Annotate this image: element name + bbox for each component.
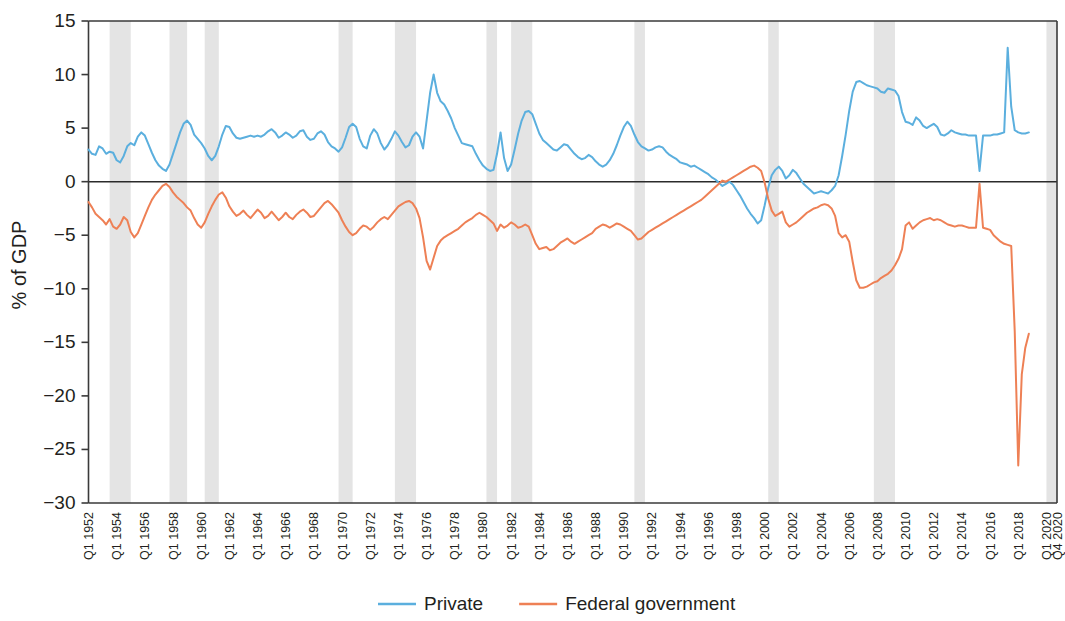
x-tick-label: Q1 1988 — [589, 512, 603, 560]
x-tick-label: Q1 1956 — [138, 512, 152, 560]
recession-band — [170, 21, 188, 503]
x-tick-label: Q1 1974 — [392, 512, 406, 560]
chart-legend: PrivateFederal government — [378, 593, 736, 614]
y-tick-label: 5 — [65, 117, 76, 138]
legend-label-federal-government: Federal government — [565, 593, 736, 614]
recession-band — [395, 21, 416, 503]
y-tick-label: −30 — [43, 492, 75, 513]
x-tick-label: Q1 1996 — [702, 512, 716, 560]
x-tick-label: Q1 1978 — [448, 512, 462, 560]
recession-band — [768, 21, 779, 503]
x-tick-label: Q1 1968 — [307, 512, 321, 560]
recession-band — [110, 21, 131, 503]
x-tick-label: Q1 1976 — [420, 512, 434, 560]
recession-band — [339, 21, 353, 503]
recession-band — [1046, 21, 1057, 503]
y-tick-label: 0 — [65, 171, 76, 192]
x-tick-label: Q1 1986 — [561, 512, 575, 560]
y-axis-title-group: % of GDP — [8, 221, 30, 310]
x-tick-label: Q1 2010 — [899, 512, 913, 560]
x-tick-label: Q1 2002 — [786, 512, 800, 560]
x-tick-label: Q1 1954 — [110, 512, 124, 560]
x-tick-label: Q1 1992 — [645, 512, 659, 560]
recession-band — [205, 21, 219, 503]
x-tick-label: Q4 2020 — [1051, 512, 1065, 560]
axes-group — [89, 21, 1058, 503]
y-axis-title: % of GDP — [8, 221, 30, 310]
net-lending-borrowing-line-chart: 151050−5−10−15−20−25−30 Q1 1952Q1 1954Q1… — [0, 0, 1065, 621]
x-tick-label: Q1 1994 — [674, 512, 688, 560]
y-tick-label: −25 — [43, 438, 75, 459]
x-tick-label: Q1 1990 — [617, 512, 631, 560]
recession-band-group — [110, 21, 1057, 503]
x-tick-label: Q1 2016 — [984, 512, 998, 560]
recession-band — [511, 21, 532, 503]
x-tick-label: Q1 1952 — [82, 512, 96, 560]
y-tick-label: −5 — [54, 224, 76, 245]
x-tick-label: Q1 1980 — [476, 512, 490, 560]
x-tick-label: Q1 1962 — [223, 512, 237, 560]
x-tick-label: Q1 2018 — [1012, 512, 1026, 560]
x-tick-label: Q1 1960 — [195, 512, 209, 560]
chart-figure: 151050−5−10−15−20−25−30 Q1 1952Q1 1954Q1… — [0, 0, 1065, 621]
recession-band — [486, 21, 497, 503]
y-tick-label: −15 — [43, 331, 75, 352]
x-tick-label: Q1 2006 — [843, 512, 857, 560]
x-tick-label: Q1 1966 — [279, 512, 293, 560]
x-tick-label: Q1 1958 — [167, 512, 181, 560]
x-tick-label: Q1 2012 — [927, 512, 941, 560]
x-tick-label: Q1 2014 — [955, 512, 969, 560]
x-tick-label: Q1 2000 — [758, 512, 772, 560]
x-tick-label: Q1 1972 — [364, 512, 378, 560]
x-tick-label: Q1 2008 — [871, 512, 885, 560]
y-tick-group: 151050−5−10−15−20−25−30 — [43, 10, 88, 513]
x-tick-label: Q1 1984 — [533, 512, 547, 560]
legend-label-private: Private — [424, 593, 483, 614]
recession-band — [634, 21, 645, 503]
x-tick-label: Q1 1970 — [336, 512, 350, 560]
x-tick-label: Q1 2004 — [815, 512, 829, 560]
y-tick-label: 10 — [54, 64, 75, 85]
y-tick-label: −20 — [43, 385, 75, 406]
x-tick-label: Q1 1982 — [505, 512, 519, 560]
x-tick-group: Q1 1952Q1 1954Q1 1956Q1 1958Q1 1960Q1 19… — [82, 512, 1065, 560]
y-tick-label: 15 — [54, 10, 75, 31]
x-tick-label: Q1 1998 — [730, 512, 744, 560]
y-tick-label: −10 — [43, 278, 75, 299]
x-tick-label: Q1 1964 — [251, 512, 265, 560]
